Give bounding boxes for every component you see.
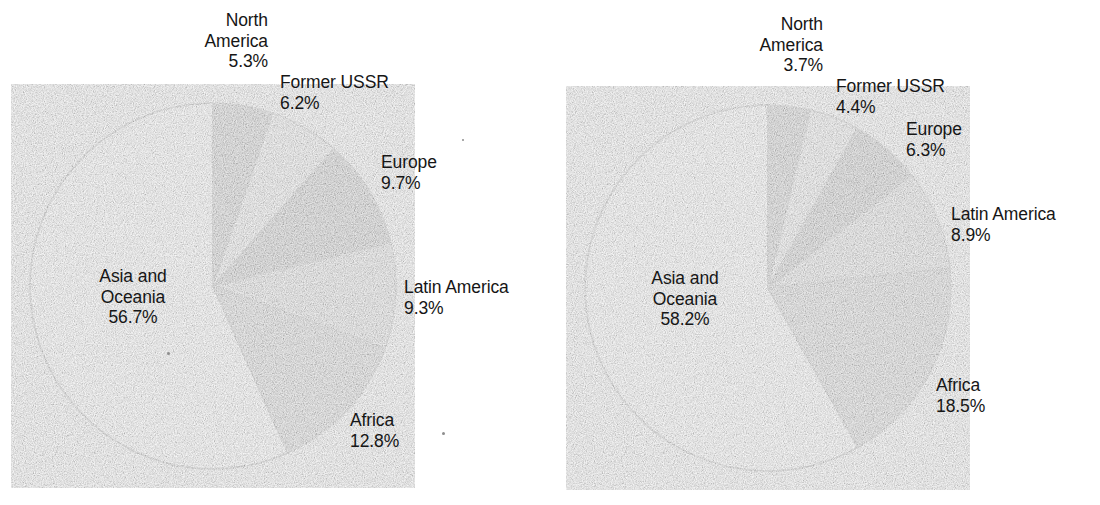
label-africa-right: Africa 18.5% <box>936 375 985 416</box>
label-latin-america-left-name: Latin America <box>404 277 509 298</box>
label-asia-and-oceania-right: Asia and Oceania 58.2% <box>615 268 755 330</box>
label-latin-america-left: Latin America 9.3% <box>404 277 509 318</box>
label-asia-and-oceania-left-value: 56.7% <box>63 307 203 328</box>
label-former-ussr-right: Former USSR 4.4% <box>836 76 945 117</box>
label-latin-america-right-value: 8.9% <box>951 225 1056 246</box>
label-africa-right-name: Africa <box>936 375 985 396</box>
scan-speck <box>442 432 445 435</box>
pie-chart-figure: North America 5.3% Former USSR 6.2% Euro… <box>0 0 1100 505</box>
scan-speck <box>167 352 170 355</box>
scan-speck <box>462 139 464 141</box>
label-north-america-left-line1: North <box>128 10 268 31</box>
label-asia-and-oceania-left: Asia and Oceania 56.7% <box>63 266 203 328</box>
label-europe-left: Europe 9.7% <box>381 152 437 193</box>
label-latin-america-right: Latin America 8.9% <box>951 204 1056 245</box>
label-europe-left-value: 9.7% <box>381 173 437 194</box>
label-former-ussr-right-name: Former USSR <box>836 76 945 97</box>
label-former-ussr-left: Former USSR 6.2% <box>280 72 389 113</box>
label-former-ussr-left-name: Former USSR <box>280 72 389 93</box>
label-europe-right-value: 6.3% <box>906 140 962 161</box>
label-europe-left-name: Europe <box>381 152 437 173</box>
label-asia-and-oceania-right-value: 58.2% <box>615 309 755 330</box>
label-former-ussr-left-value: 6.2% <box>280 93 389 114</box>
label-former-ussr-right-value: 4.4% <box>836 97 945 118</box>
label-asia-and-oceania-right-line1: Asia and <box>615 268 755 289</box>
label-north-america-right-line1: North <box>683 14 823 35</box>
label-africa-left-name: Africa <box>350 410 399 431</box>
label-africa-left-value: 12.8% <box>350 431 399 452</box>
label-north-america-right: North America 3.7% <box>683 14 823 76</box>
label-asia-and-oceania-left-line2: Oceania <box>63 287 203 308</box>
label-north-america-left: North America 5.3% <box>128 10 268 72</box>
label-latin-america-left-value: 9.3% <box>404 298 509 319</box>
label-north-america-right-line2: America <box>683 35 823 56</box>
label-europe-right-name: Europe <box>906 119 962 140</box>
label-north-america-left-line2: America <box>128 31 268 52</box>
label-europe-right: Europe 6.3% <box>906 119 962 160</box>
label-asia-and-oceania-left-line1: Asia and <box>63 266 203 287</box>
label-north-america-right-value: 3.7% <box>683 55 823 76</box>
label-africa-right-value: 18.5% <box>936 396 985 417</box>
label-latin-america-right-name: Latin America <box>951 204 1056 225</box>
label-north-america-left-value: 5.3% <box>128 51 268 72</box>
label-asia-and-oceania-right-line2: Oceania <box>615 289 755 310</box>
label-africa-left: Africa 12.8% <box>350 410 399 451</box>
